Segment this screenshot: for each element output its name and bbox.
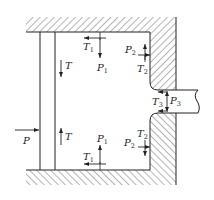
svg-text:T: T <box>65 60 73 71</box>
svg-text:P2: P2 <box>124 44 136 57</box>
svg-text:T2: T2 <box>137 128 148 141</box>
svg-text:P2: P2 <box>123 137 135 150</box>
plate <box>40 32 55 170</box>
shear-t-lower-arrow: T <box>61 128 73 145</box>
svg-text:P: P <box>22 135 30 146</box>
top-wall-forces: T1 P1 <box>83 32 108 75</box>
bottom-wall-forces: P1 T1 <box>83 133 108 170</box>
svg-text:T1: T1 <box>83 41 94 54</box>
lower-right-wall-forces: P2 T2 <box>123 128 150 156</box>
svg-text:P1: P1 <box>96 133 108 146</box>
upper-wall <box>26 17 176 90</box>
svg-text:P1: P1 <box>96 62 108 75</box>
svg-text:P3: P3 <box>169 95 181 108</box>
svg-text:T3: T3 <box>152 96 163 109</box>
svg-text:T1: T1 <box>83 151 94 164</box>
upper-right-wall-forces: P2 T2 <box>124 44 150 76</box>
force-p-arrow: P <box>15 130 39 146</box>
lower-wall <box>26 113 176 185</box>
channel-forces: T3 P3 <box>152 91 181 112</box>
svg-text:T2: T2 <box>137 63 148 76</box>
shear-t-upper-arrow: T <box>61 60 73 77</box>
svg-text:T: T <box>65 131 73 142</box>
cavity-force-diagram: P T T T1 P1 P2 T2 T3 P3 P1 <box>0 0 214 200</box>
